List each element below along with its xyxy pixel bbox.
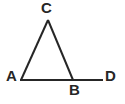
vertex-label-c: C xyxy=(41,0,52,15)
geometry-figure: A B C D xyxy=(0,0,125,104)
vertex-label-a: A xyxy=(6,68,17,83)
segment-CB xyxy=(48,20,73,80)
figure-canvas xyxy=(0,0,125,104)
segment-AC xyxy=(21,20,48,80)
vertex-label-b: B xyxy=(69,82,80,97)
vertex-label-d: D xyxy=(105,68,116,83)
